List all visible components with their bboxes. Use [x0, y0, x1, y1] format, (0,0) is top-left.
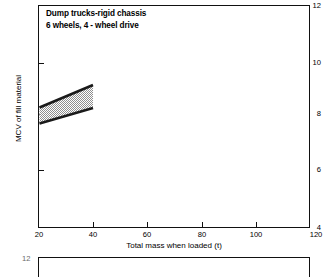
plot-annotation: Dump trucks-rigid chassis 6 wheels, 4 - … — [46, 8, 146, 31]
plot-area — [38, 5, 310, 228]
plot-annotation-line-1: Dump trucks-rigid chassis — [46, 8, 146, 20]
xtick-mark-100 — [256, 222, 257, 228]
xtick-label-100: 100 — [241, 231, 271, 239]
xtick-label-80: 80 — [187, 231, 217, 239]
xtick-mark-60 — [147, 222, 148, 228]
xtick-mark-80 — [202, 222, 203, 228]
ytick-label-8: 8 — [295, 110, 321, 118]
ytick-label-10: 10 — [295, 59, 321, 67]
ytick-mark-10 — [38, 63, 44, 64]
plot-annotation-line-2: 6 wheels, 4 - wheel drive — [46, 20, 146, 32]
next-figure-frame — [38, 257, 310, 277]
xtick-label-60: 60 — [132, 231, 162, 239]
y-axis-label: MCV of fill material — [14, 39, 23, 179]
xtick-label-120: 120 — [301, 231, 327, 239]
xtick-label-20: 20 — [24, 231, 54, 239]
x-axis-label: Total mass when loaded (t) — [38, 241, 310, 250]
xtick-mark-40 — [93, 222, 94, 228]
xtick-label-40: 40 — [78, 231, 108, 239]
ytick-mark-8 — [38, 114, 44, 115]
next-figure-ytick-label: 12 — [22, 255, 30, 263]
ytick-label-12: 12 — [295, 2, 321, 10]
ytick-mark-6 — [38, 170, 44, 171]
ytick-label-6: 6 — [295, 166, 321, 174]
